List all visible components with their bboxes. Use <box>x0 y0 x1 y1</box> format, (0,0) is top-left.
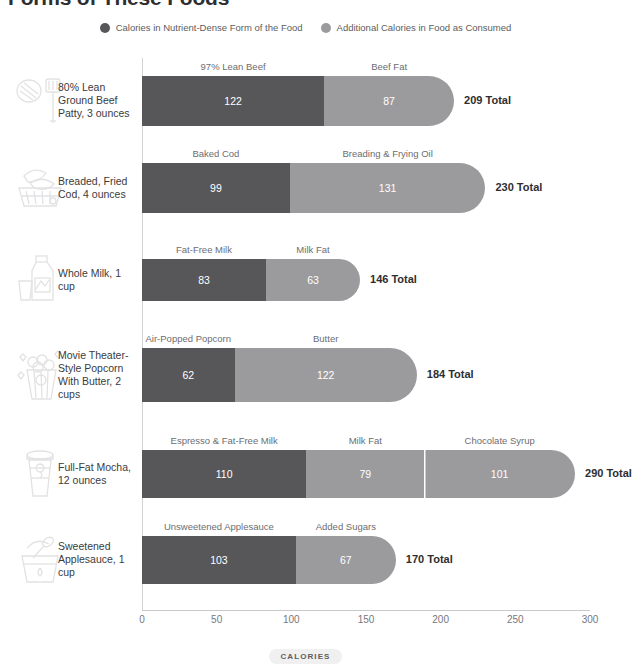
bar-segment-value: 101 <box>491 468 509 480</box>
stacked-bar-container: Espresso & Fat-Free MilkMilk FatChocolat… <box>142 450 575 498</box>
row-category-label: Breaded, Fried Cod, 4 ounces <box>58 175 138 201</box>
bar-segment-caption: Beef Fat <box>371 61 407 72</box>
row-category-label: Full-Fat Mocha, 12 ounces <box>58 461 138 487</box>
bar-segment[interactable]: 67 <box>296 536 396 584</box>
bar-segment-caption: Butter <box>313 333 338 344</box>
legend-dot-icon <box>321 23 331 33</box>
x-axis-tick-label: 200 <box>432 614 449 625</box>
bar-segment-value: 103 <box>210 554 228 566</box>
bar-segment-value: 99 <box>210 182 222 194</box>
bar-segment-value: 122 <box>317 369 335 381</box>
bar-segment-value: 63 <box>307 274 319 286</box>
bar-segment-value: 79 <box>359 468 371 480</box>
chart-row: Whole Milk, 1 cupFat-Free MilkMilk Fat83… <box>0 259 611 301</box>
bar-segment[interactable]: 62 <box>142 348 235 402</box>
chart-row: Movie Theater-Style Popcorn With Butter,… <box>0 348 611 402</box>
stacked-bar-container: Unsweetened ApplesauceAdded Sugars10367 <box>142 536 396 584</box>
bar-segment-value: 67 <box>340 554 352 566</box>
bar-segment-value: 131 <box>379 182 397 194</box>
stacked-bar[interactable]: 8363 <box>142 259 360 301</box>
stacked-bar[interactable]: 99131 <box>142 163 485 213</box>
bar-segment-caption: 97% Lean Beef <box>201 61 266 72</box>
bar-segment[interactable]: 101 <box>424 450 575 498</box>
stacked-bar-container: 97% Lean BeefBeef Fat12287 <box>142 76 454 126</box>
row-total-label: 170 Total <box>406 553 453 565</box>
bar-segment[interactable]: 122 <box>142 76 324 126</box>
bar-segment-caption: Added Sugars <box>316 521 376 532</box>
x-axis-tick-label: 250 <box>507 614 524 625</box>
x-axis-tick-label: 50 <box>211 614 222 625</box>
row-total-label: 184 Total <box>427 368 474 380</box>
bar-segment-caption: Unsweetened Applesauce <box>164 521 274 532</box>
bar-segment[interactable]: 87 <box>324 76 454 126</box>
row-category-label: 80% Lean Ground Beef Patty, 3 ounces <box>58 81 138 121</box>
bar-segment-caption: Espresso & Fat-Free Milk <box>171 435 278 446</box>
x-axis-tick-labels: 050100150200250300 <box>0 614 611 630</box>
bar-segment-caption: Air-Popped Popcorn <box>146 333 232 344</box>
bar-segment[interactable]: 99 <box>142 163 290 213</box>
legend-item: Calories in Nutrient-Dense Form of the F… <box>100 22 303 33</box>
bar-segment[interactable]: 122 <box>235 348 417 402</box>
bar-segment-value: 87 <box>383 95 395 107</box>
y-axis-line <box>142 58 143 610</box>
bar-segment-value: 62 <box>182 369 194 381</box>
bar-segment-value: 83 <box>198 274 210 286</box>
bar-segment[interactable]: 83 <box>142 259 266 301</box>
page-title: Forms of These Foods <box>8 0 229 10</box>
stacked-bar-container: Air-Popped PopcornButter62122 <box>142 348 417 402</box>
legend-item-label: Calories in Nutrient-Dense Form of the F… <box>116 22 303 33</box>
stacked-bar[interactable]: 11079101 <box>142 450 575 498</box>
stacked-bar[interactable]: 10367 <box>142 536 396 584</box>
bar-segment[interactable]: 79 <box>306 450 424 498</box>
chart-row: 80% Lean Ground Beef Patty, 3 ounces97% … <box>0 76 611 126</box>
x-axis-tick-label: 0 <box>139 614 145 625</box>
bar-segment-caption: Chocolate Syrup <box>465 435 535 446</box>
chart-row: Sweetened Applesauce, 1 cupUnsweetened A… <box>0 536 611 584</box>
legend-dot-icon <box>100 23 110 33</box>
x-axis-line <box>142 610 590 611</box>
row-category-label: Whole Milk, 1 cup <box>58 267 138 293</box>
bar-segment-caption: Milk Fat <box>296 244 329 255</box>
x-axis-caption: CALORIES <box>0 645 611 664</box>
chart-row: Full-Fat Mocha, 12 ouncesEspresso & Fat-… <box>0 450 611 498</box>
stacked-bar[interactable]: 62122 <box>142 348 417 402</box>
bar-segment[interactable]: 131 <box>290 163 486 213</box>
bar-segment[interactable]: 103 <box>142 536 296 584</box>
x-axis-tick-label: 300 <box>582 614 599 625</box>
stacked-bar[interactable]: 12287 <box>142 76 454 126</box>
x-axis-caption-badge: CALORIES <box>269 649 341 664</box>
bar-segment-caption: Breading & Frying Oil <box>342 148 432 159</box>
row-category-label: Movie Theater-Style Popcorn With Butter,… <box>58 349 138 402</box>
row-total-label: 209 Total <box>464 94 511 106</box>
x-axis-tick-label: 150 <box>358 614 375 625</box>
stacked-bar-container: Fat-Free MilkMilk Fat8363 <box>142 259 360 301</box>
row-total-label: 230 Total <box>495 181 542 193</box>
row-total-label: 146 Total <box>370 273 417 285</box>
bar-segment-value: 110 <box>216 468 233 480</box>
legend-item: Additional Calories in Food as Consumed <box>321 22 512 33</box>
bar-segment-caption: Fat-Free Milk <box>176 244 232 255</box>
bar-segment[interactable]: 63 <box>266 259 360 301</box>
bar-segment[interactable]: 110 <box>142 450 306 498</box>
stacked-bar-container: Baked CodBreading & Frying Oil99131 <box>142 163 485 213</box>
chart-legend: Calories in Nutrient-Dense Form of the F… <box>0 22 611 33</box>
bar-segment-value: 122 <box>224 95 242 107</box>
bar-segment-caption: Milk Fat <box>349 435 382 446</box>
chart-row: Breaded, Fried Cod, 4 ouncesBaked CodBre… <box>0 163 611 213</box>
row-total-label: 290 Total <box>585 467 632 479</box>
x-axis-tick-label: 100 <box>283 614 300 625</box>
legend-item-label: Additional Calories in Food as Consumed <box>337 22 512 33</box>
row-category-label: Sweetened Applesauce, 1 cup <box>58 540 138 580</box>
bar-segment-caption: Baked Cod <box>192 148 239 159</box>
